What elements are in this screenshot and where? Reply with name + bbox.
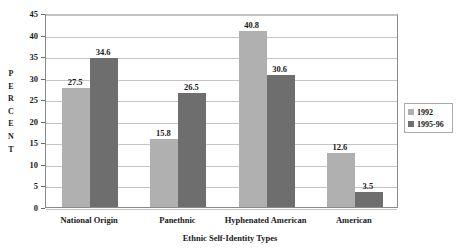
y-tick-label: 15 [12, 139, 38, 148]
x-axis-title: Ethnic Self-Identity Types [0, 233, 460, 243]
y-tick-label: 0 [12, 204, 38, 213]
bar [62, 88, 90, 207]
bar [355, 192, 383, 207]
y-tick-label: 10 [12, 161, 38, 170]
bar-value-label: 12.6 [322, 143, 358, 152]
y-axis-title-letter: C [3, 106, 19, 119]
bar-value-label: 30.6 [262, 65, 298, 74]
category-label: American [290, 215, 418, 225]
legend-swatch [408, 109, 414, 115]
legend-item: 1992 [408, 107, 450, 117]
bar-value-label: 40.8 [234, 21, 270, 30]
gridline [46, 37, 397, 38]
y-tick-label: 25 [12, 96, 38, 105]
bar [327, 153, 355, 207]
y-tick-label: 45 [12, 10, 38, 19]
y-tick-mark [41, 208, 45, 209]
bar-value-label: 27.5 [57, 78, 93, 87]
bar [150, 139, 178, 207]
bar [267, 75, 295, 207]
y-tick-label: 30 [12, 75, 38, 84]
y-tick-label: 40 [12, 32, 38, 41]
chart-legend: 19921995-96 [404, 103, 453, 133]
legend-label: 1992 [417, 108, 433, 117]
bar [178, 93, 206, 207]
bar-value-label: 3.5 [350, 182, 386, 191]
gridline [46, 15, 397, 16]
y-tick-label: 5 [12, 182, 38, 191]
y-tick-label: 35 [12, 53, 38, 62]
plot-area [45, 14, 398, 208]
bar-value-label: 26.5 [173, 83, 209, 92]
gridline [46, 209, 397, 210]
bar [90, 58, 118, 207]
bar [239, 31, 267, 207]
legend-label: 1995-96 [417, 120, 444, 129]
legend-item: 1995-96 [408, 119, 450, 129]
bar-value-label: 15.8 [145, 129, 181, 138]
legend-swatch [408, 121, 414, 127]
bar-chart: PERCENT 051015202530354045 27.534.615.82… [0, 0, 460, 251]
y-tick-label: 20 [12, 118, 38, 127]
bar-value-label: 34.6 [85, 48, 121, 57]
